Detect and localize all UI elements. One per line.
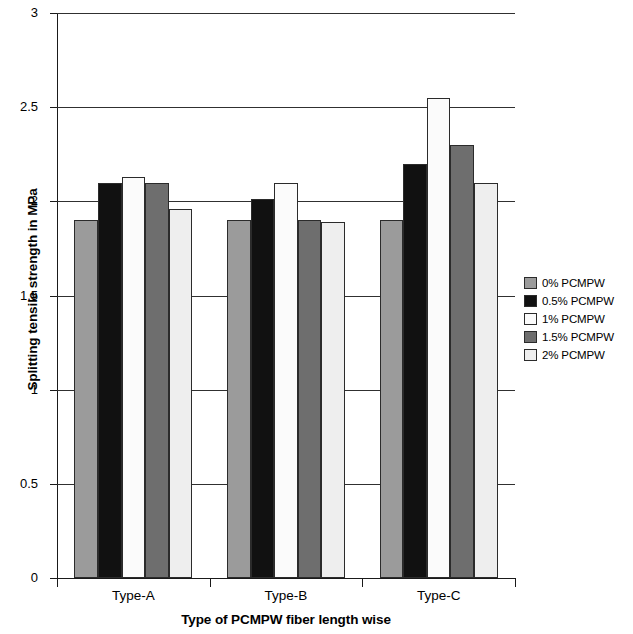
bar bbox=[251, 199, 275, 578]
y-tick-0.5 bbox=[50, 484, 57, 485]
x-tick-end bbox=[515, 578, 516, 587]
bar bbox=[169, 209, 193, 578]
bar bbox=[403, 164, 427, 578]
legend: 0% PCMPW0.5% PCMPW1% PCMPW1.5% PCMPW2% P… bbox=[524, 274, 633, 364]
x-axis-title: Type of PCMPW fiber length wise bbox=[57, 612, 515, 627]
y-tick-label: 2.5 bbox=[20, 100, 38, 113]
bar-chart-figure: Splitting tensile strength in MPa 00.511… bbox=[0, 0, 633, 634]
bar bbox=[227, 220, 251, 578]
y-tick-1 bbox=[50, 390, 57, 391]
legend-swatch-icon bbox=[524, 331, 537, 343]
legend-item: 0% PCMPW bbox=[524, 274, 633, 292]
y-tick-1.5 bbox=[50, 296, 57, 297]
bar bbox=[380, 220, 404, 578]
bar bbox=[298, 220, 322, 578]
gridline-0 bbox=[57, 578, 515, 579]
gridline-3 bbox=[57, 13, 515, 14]
y-tick-3 bbox=[50, 13, 57, 14]
y-axis-tick-labels: 00.511.522.53 bbox=[0, 13, 50, 579]
legend-item: 1% PCMPW bbox=[524, 310, 633, 328]
bar bbox=[145, 183, 169, 579]
y-axis-tick-marks bbox=[50, 13, 57, 579]
legend-label: 1% PCMPW bbox=[542, 313, 605, 325]
x-tick bbox=[362, 578, 363, 587]
y-tick-2 bbox=[50, 201, 57, 202]
legend-swatch-icon bbox=[524, 277, 537, 289]
bar bbox=[321, 222, 345, 578]
y-tick-label: 3 bbox=[31, 6, 38, 19]
legend-swatch-icon bbox=[524, 295, 537, 307]
bar bbox=[122, 177, 146, 578]
legend-swatch-icon bbox=[524, 313, 537, 325]
y-tick-label: 1.5 bbox=[20, 289, 38, 302]
legend-swatch-icon bbox=[524, 349, 537, 361]
bar bbox=[474, 183, 498, 579]
y-tick-label: 0.5 bbox=[20, 477, 38, 490]
bar bbox=[450, 145, 474, 578]
y-tick-label: 0 bbox=[31, 571, 38, 584]
bar bbox=[74, 220, 98, 578]
legend-label: 0.5% PCMPW bbox=[542, 295, 614, 307]
x-tick-end bbox=[57, 578, 58, 587]
bar bbox=[274, 183, 298, 579]
y-tick-label: 2 bbox=[31, 194, 38, 207]
legend-label: 0% PCMPW bbox=[542, 277, 605, 289]
bar bbox=[98, 183, 122, 579]
y-tick-2.5 bbox=[50, 107, 57, 108]
legend-item: 2% PCMPW bbox=[524, 346, 633, 364]
legend-item: 1.5% PCMPW bbox=[524, 328, 633, 346]
x-group-label-type-c: Type-C bbox=[362, 588, 515, 604]
x-tick bbox=[210, 578, 211, 587]
y-tick-0 bbox=[50, 578, 57, 579]
legend-item: 0.5% PCMPW bbox=[524, 292, 633, 310]
legend-label: 2% PCMPW bbox=[542, 349, 605, 361]
x-group-label-type-b: Type-B bbox=[210, 588, 363, 604]
legend-label: 1.5% PCMPW bbox=[542, 331, 614, 343]
plot-area bbox=[57, 13, 515, 578]
y-tick-label: 1 bbox=[31, 383, 38, 396]
x-group-label-type-a: Type-A bbox=[57, 588, 210, 604]
bar bbox=[427, 98, 451, 578]
